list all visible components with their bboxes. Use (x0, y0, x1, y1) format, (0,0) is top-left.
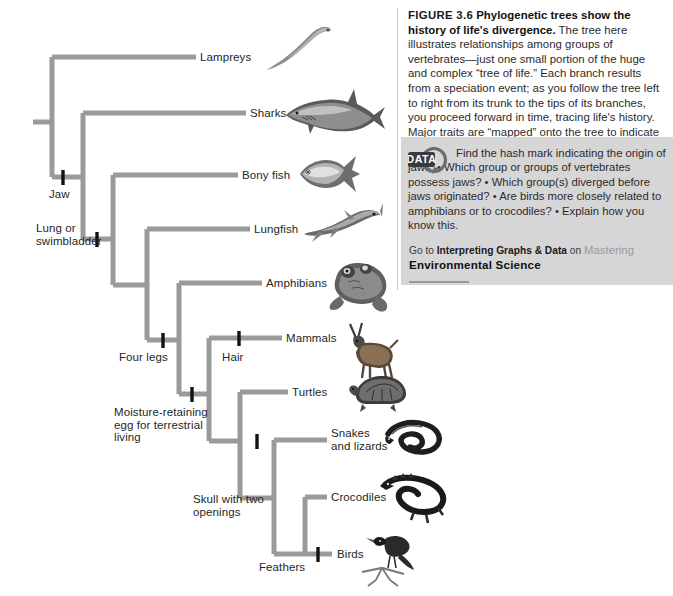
figure-body: The tree here illustrates relationships … (408, 24, 659, 153)
mastering-wordmark: Mastering (584, 244, 634, 256)
bird-illustration (356, 528, 420, 590)
frog-illustration (318, 256, 396, 314)
caption-column: FIGURE 3.6 Phylogenetic trees show the h… (408, 8, 666, 154)
trait-label-four-legs: Four legs (119, 351, 168, 364)
goto-mid: on (567, 245, 584, 256)
trait-label-lung-or-swimbladder: Lung or swimbladder (36, 222, 102, 247)
tip-label-snakes-and-lizards: Snakes and lizards (331, 427, 388, 452)
tip-label-crocodiles: Crocodiles (331, 491, 386, 504)
turtle-illustration (346, 370, 412, 416)
column-divider (397, 8, 398, 290)
tip-label-bony-fish: Bony fish (242, 169, 290, 182)
tip-label-mammals: Mammals (286, 332, 337, 345)
data-q-icon: DATA (408, 147, 454, 173)
tip-label-lampreys: Lampreys (200, 51, 251, 64)
environmental-science-wordmark: Environmental Science (409, 258, 541, 271)
shark-illustration (282, 85, 386, 143)
trait-label-moisture-retaining-egg: Moisture-retaining egg for terrestrial l… (114, 406, 208, 444)
lamprey-illustration (262, 22, 336, 74)
tip-label-sharks: Sharks (250, 107, 286, 120)
goto-bold-label: Interpreting Graphs & Data (437, 245, 567, 256)
figure-number: FIGURE 3.6 (408, 9, 473, 21)
data-box-rule (409, 281, 469, 283)
trait-label-feathers: Feathers (259, 561, 305, 574)
trait-label-jaw: Jaw (49, 188, 70, 201)
mastering-link-line: Go to Interpreting Graphs & Data on Mast… (409, 243, 665, 273)
svg-text:DATA: DATA (408, 153, 437, 165)
bony-fish-illustration (292, 152, 362, 196)
figure-caption: FIGURE 3.6 Phylogenetic trees show the h… (408, 8, 666, 154)
data-question-box: DATA Find the hash mark indicating the o… (401, 137, 673, 285)
goto-prefix: Go to (409, 245, 437, 256)
data-box-content: DATA Find the hash mark indicating the o… (408, 146, 666, 232)
trait-label-skull-with-two-openings: Skull with two openings (193, 493, 264, 518)
snake-illustration (384, 418, 446, 470)
tip-label-turtles: Turtles (292, 386, 327, 399)
figure-root: Lampreys Sharks Bony fish Lungfish Amphi… (0, 0, 673, 596)
phylogenetic-tree-panel: Lampreys Sharks Bony fish Lungfish Amphi… (0, 0, 398, 596)
trait-label-hair: Hair (222, 351, 244, 364)
lungfish-illustration (300, 200, 384, 252)
tip-label-lungfish: Lungfish (254, 223, 298, 236)
crocodile-illustration (380, 470, 450, 528)
